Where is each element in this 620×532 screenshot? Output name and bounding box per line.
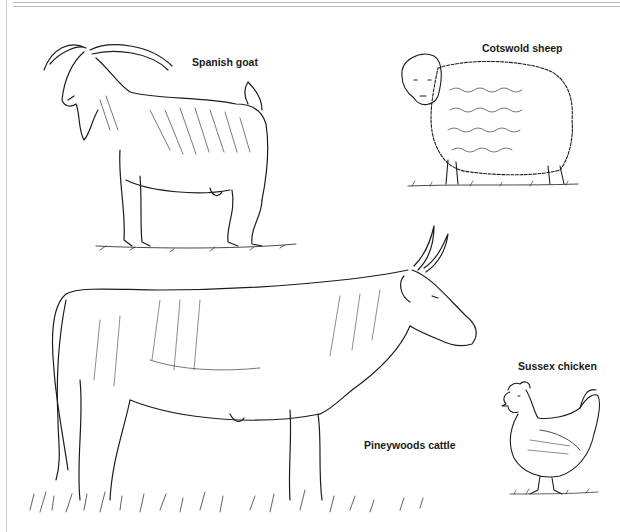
label-cotswold-sheep: Cotswold sheep xyxy=(482,42,563,54)
spanish-goat-drawing xyxy=(44,45,296,252)
cotswold-sheep-drawing xyxy=(402,54,578,186)
label-spanish-goat: Spanish goat xyxy=(192,56,258,68)
pineywoods-cattle-drawing xyxy=(30,226,476,512)
label-sussex-chicken: Sussex chicken xyxy=(518,360,597,372)
livestock-illustrations xyxy=(0,0,620,532)
sussex-chicken-drawing xyxy=(502,382,600,494)
label-pineywoods-cattle: Pineywoods cattle xyxy=(364,439,456,451)
